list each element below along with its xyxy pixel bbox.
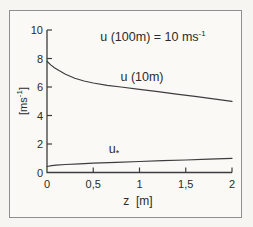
y-axis-label: [ms-1] [18,87,29,115]
x-tick-label: 0,5 [86,178,101,190]
x-tick-label: 1,5 [178,178,193,190]
y-tick-label: 8 [37,53,43,65]
curve-u-star [47,158,232,166]
figure: 024681000,511,52 u (100m) = 10 ms-1 [ms-… [0,0,253,227]
y-axis-label-pre: [ms [17,97,29,115]
curve-label-u-10m: u (10m) [120,71,163,84]
y-tick-label: 4 [37,110,43,122]
y-tick-label: 6 [37,81,43,93]
x-tick-label: 1 [136,178,142,190]
y-tick-label: 2 [37,138,43,150]
axis-spine [47,30,232,173]
x-axis-label: z [m] [123,195,152,207]
plot-title-superscript: -1 [199,29,206,38]
curve-label-u-star: u* [109,143,119,156]
x-tick-label: 0 [44,178,50,190]
y-tick-label: 10 [31,24,43,36]
curve-label-u-star-main: u [109,142,116,156]
curve-label-u-star-subscript: * [116,148,120,158]
y-tick-label: 0 [37,167,43,179]
x-tick-label: 2 [229,178,235,190]
plot-title-text: u (100m) = 10 ms [100,30,198,44]
y-axis-label-superscript: -1 [15,90,24,97]
plot-title: u (100m) = 10 ms-1 [100,31,205,44]
y-axis-label-post: ] [17,87,29,90]
